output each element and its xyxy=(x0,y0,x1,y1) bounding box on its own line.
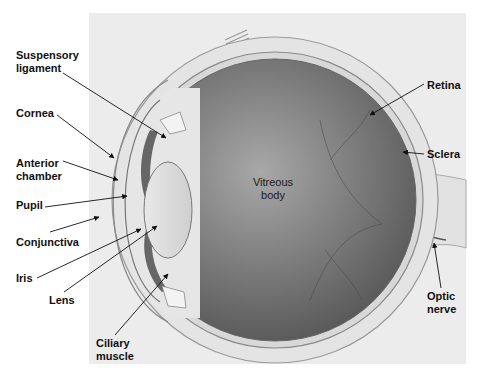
label-cornea: Cornea xyxy=(16,107,54,120)
label-conjunctiva: Conjunctiva xyxy=(16,236,79,249)
label-vitreous-body: Vitreous body xyxy=(248,176,298,202)
label-iris: Iris xyxy=(16,272,33,285)
label-lens: Lens xyxy=(49,294,75,307)
label-sclera: Sclera xyxy=(427,148,460,161)
label-retina: Retina xyxy=(427,79,461,92)
lens-shape xyxy=(144,162,192,258)
label-suspensory-ligament: Suspensory ligament xyxy=(16,49,79,75)
label-optic-nerve: Optic nerve xyxy=(427,290,456,316)
label-pupil: Pupil xyxy=(16,199,43,212)
label-anterior-chamber: Anterior chamber xyxy=(16,157,62,183)
label-ciliary-muscle: Ciliary muscle xyxy=(96,337,134,363)
